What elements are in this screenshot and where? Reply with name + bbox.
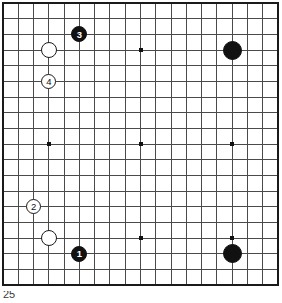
stone-b-unnumbered-lower-right[interactable]: [223, 244, 242, 263]
stone-move-number: 1: [77, 249, 82, 258]
stone-w-unnumbered-lower-left[interactable]: [41, 230, 57, 246]
diagram-caption-text: 25: [3, 291, 123, 300]
go-diagram-root: 3421 25: [0, 0, 282, 303]
go-board[interactable]: 3421: [0, 0, 282, 290]
stone-w-unnumbered-upper-left[interactable]: [41, 42, 57, 58]
stone-move-number: 4: [46, 76, 51, 86]
diagram-caption: 25: [3, 291, 123, 303]
stone-move-number: 3: [77, 29, 82, 39]
stone-move-number: 2: [31, 202, 36, 212]
stone-b-unnumbered-upper-right[interactable]: [223, 41, 242, 60]
